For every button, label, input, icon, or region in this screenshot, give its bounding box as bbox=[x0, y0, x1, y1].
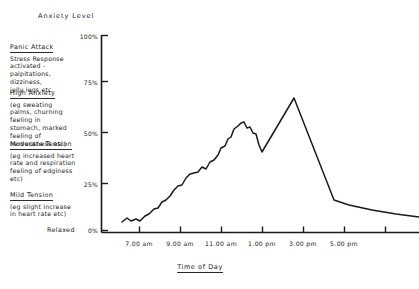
plot-area bbox=[0, 0, 419, 289]
chart-canvas: Anxiety Level Panic Attack Stress Respon… bbox=[0, 0, 419, 289]
anxiety-level-series bbox=[122, 98, 419, 222]
